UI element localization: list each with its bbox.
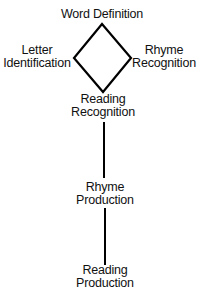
node-rhyme-recognition: Rhyme Recognition <box>131 44 197 70</box>
node-reading-recognition: Reading Recognition <box>68 93 138 119</box>
node-label: Identification <box>0 57 74 70</box>
node-label: Word Definition <box>56 8 148 21</box>
node-label: Production <box>70 194 140 207</box>
node-label: Production <box>70 277 140 290</box>
node-rhyme-production: Rhyme Production <box>70 181 140 207</box>
node-label: Recognition <box>68 106 138 119</box>
diamond-edges <box>74 24 131 92</box>
node-label: Recognition <box>131 57 197 70</box>
node-word-definition: Word Definition <box>56 8 148 21</box>
node-letter-identification: Letter Identification <box>0 44 74 70</box>
node-reading-production: Reading Production <box>70 264 140 290</box>
